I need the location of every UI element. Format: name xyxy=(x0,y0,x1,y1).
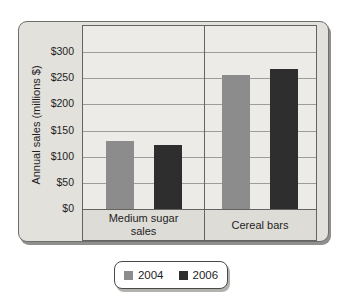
bar-2006-1 xyxy=(270,69,298,209)
y-tick-label: $300 xyxy=(19,46,74,57)
legend: 20042006 xyxy=(114,261,228,289)
page: { "chart_data": { "type": "bar", "title"… xyxy=(0,0,337,301)
x-axis-category-band: Medium sugar salesCereal bars xyxy=(83,209,316,240)
bar-2004-0 xyxy=(106,141,134,209)
plot-area: Medium sugar salesCereal bars xyxy=(82,25,317,241)
legend-item-2006: 2006 xyxy=(179,269,219,281)
y-tick-label: $150 xyxy=(19,125,74,136)
value-area xyxy=(83,26,316,209)
legend-swatch xyxy=(179,271,188,280)
bar-2004-1 xyxy=(222,75,250,209)
y-tick-label: $100 xyxy=(19,151,74,162)
y-tick-label: $200 xyxy=(19,98,74,109)
category-label: Cereal bars xyxy=(204,210,316,240)
category-separator-line xyxy=(204,26,205,240)
legend-label: 2004 xyxy=(138,269,164,281)
legend-item-2004: 2004 xyxy=(124,269,164,281)
y-tick-label: $250 xyxy=(19,72,74,83)
bar-2006-0 xyxy=(154,145,182,209)
y-tick-label: $50 xyxy=(19,177,74,188)
legend-label: 2006 xyxy=(193,269,219,281)
gridline xyxy=(83,52,316,53)
chart-frame: Annual sales (millions $) $0$50$100$150$… xyxy=(18,21,329,242)
category-label: Medium sugar sales xyxy=(83,210,204,240)
legend-swatch xyxy=(124,271,133,280)
y-axis-tick-labels: $0$50$100$150$200$250$300 xyxy=(19,25,80,208)
y-tick-label: $0 xyxy=(19,203,74,214)
